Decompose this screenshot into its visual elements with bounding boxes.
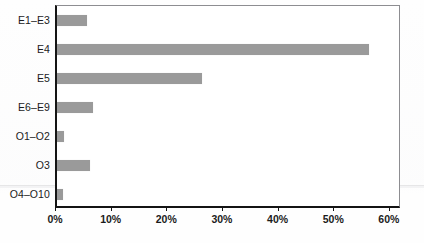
category-tick-label: E5 <box>0 72 50 84</box>
value-tick-mark <box>222 206 223 211</box>
bar <box>57 160 90 171</box>
value-tick-label: 20% <box>156 213 177 225</box>
bar <box>57 44 369 55</box>
value-tick-label: 40% <box>267 213 288 225</box>
value-tick-mark <box>278 206 279 211</box>
value-tick-mark <box>111 206 112 211</box>
category-tick-label: E6–E9 <box>0 101 50 113</box>
value-axis: 0%10%20%30%40%50%60% <box>55 206 400 236</box>
value-tick-label: 60% <box>378 213 399 225</box>
category-tick-label: O3 <box>0 159 50 171</box>
horizontal-bar-chart: E1–E3E4E5E6–E9O1–O2O3O4–O10 0%10%20%30%4… <box>0 0 424 243</box>
value-tick-label: 0% <box>47 213 62 225</box>
value-tick-mark <box>166 206 167 211</box>
bar <box>57 73 202 84</box>
value-tick-mark <box>55 206 56 211</box>
bar <box>57 15 87 26</box>
value-tick-label: 30% <box>211 213 232 225</box>
bar <box>57 102 93 113</box>
category-tick-label: E4 <box>0 43 50 55</box>
bar <box>57 131 64 142</box>
bar <box>57 189 63 200</box>
value-tick-label: 50% <box>323 213 344 225</box>
plot-area <box>55 5 400 208</box>
value-tick-label: 10% <box>100 213 121 225</box>
category-tick-label: O1–O2 <box>0 130 50 142</box>
value-tick-mark <box>333 206 334 211</box>
category-tick-label: O4–O10 <box>0 188 50 200</box>
category-tick-label: E1–E3 <box>0 14 50 26</box>
category-axis: E1–E3E4E5E6–E9O1–O2O3O4–O10 <box>0 8 50 208</box>
bars-layer <box>57 6 399 206</box>
value-tick-mark <box>389 206 390 211</box>
